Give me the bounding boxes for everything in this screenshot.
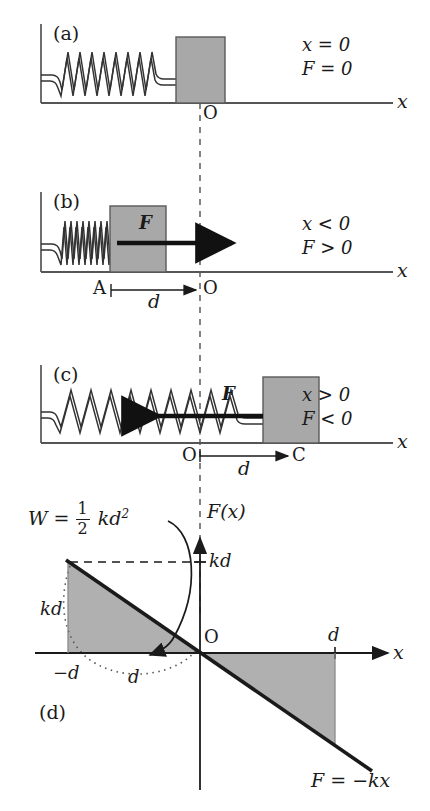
work-formula-exponent: 2: [121, 507, 129, 521]
condition-a-1: x = 0: [302, 36, 350, 54]
work-formula-label: W = 1 2 kd2: [28, 502, 129, 539]
work-formula-rhs: kd: [98, 507, 122, 529]
work-formula-numerator: 1: [76, 501, 90, 518]
left-height-label-kd: kd: [40, 600, 62, 618]
origin-label-d: O: [204, 628, 219, 646]
condition-a-2: F = 0: [302, 60, 352, 78]
panel-tag-b: (b): [53, 192, 80, 211]
force-label-b: F: [139, 214, 152, 232]
origin-label-b: O: [203, 279, 218, 297]
point-label-a-b: A: [93, 279, 106, 297]
condition-b-1: x < 0: [302, 215, 350, 233]
spring-a: [41, 52, 176, 96]
condition-b-2: F > 0: [302, 239, 352, 257]
panel-tag-a: (a): [53, 24, 79, 43]
work-formula-fraction: 1 2: [76, 501, 90, 538]
work-formula-denominator: 2: [76, 521, 90, 538]
work-formula-lhs: W =: [28, 507, 70, 529]
y-axis-label-d: F(x): [207, 502, 246, 521]
point-label-c: C: [292, 446, 306, 464]
block-a: [176, 37, 225, 103]
force-label-c: F: [222, 385, 235, 403]
x-axis-label-d: x: [393, 643, 404, 662]
x-axis-label-b: x: [397, 261, 408, 280]
x-tick-label-minus-d: −d: [53, 664, 80, 682]
arc-span-label-d: d: [128, 668, 140, 686]
x-tick-label-d: d: [328, 626, 340, 644]
x-axis-label-a: x: [397, 92, 408, 111]
line-equation-label: F = −kx: [311, 771, 390, 790]
block-b: [110, 206, 166, 272]
distance-label-c: d: [238, 459, 250, 478]
condition-c-2: F < 0: [302, 410, 352, 428]
condition-c-1: x > 0: [302, 386, 350, 404]
distance-label-b: d: [148, 292, 160, 311]
panel-tag-d: (d): [39, 703, 66, 722]
y-tick-label-kd: kd: [209, 552, 231, 570]
origin-label-a: O: [203, 104, 218, 122]
panel-tag-c: (c): [53, 365, 78, 384]
x-axis-label-c: x: [397, 432, 408, 451]
origin-label-c: O: [182, 446, 197, 464]
